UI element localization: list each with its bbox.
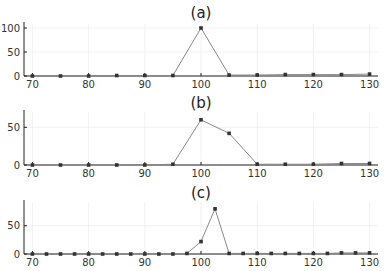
- data-point: [283, 73, 287, 77]
- data-point: [354, 251, 358, 255]
- data-point: [143, 74, 147, 78]
- data-point: [340, 251, 344, 255]
- data-point: [129, 252, 133, 256]
- x-tick-label: 100: [191, 257, 210, 268]
- data-point: [199, 118, 203, 122]
- panel-title: (c): [191, 184, 211, 202]
- x-tick-label: 70: [26, 257, 39, 268]
- data-point: [241, 252, 245, 256]
- data-point: [269, 252, 273, 256]
- x-tick-label: 80: [82, 79, 95, 90]
- x-tick-label: 130: [360, 168, 379, 179]
- y-tick-label: 0: [14, 249, 20, 260]
- x-tick-label: 120: [304, 168, 323, 179]
- data-point: [340, 162, 344, 166]
- y-tick-label: 100: [1, 23, 20, 34]
- data-point: [283, 252, 287, 256]
- y-tick-label: 0: [14, 71, 20, 82]
- data-point: [143, 252, 147, 256]
- x-tick-label: 80: [82, 257, 95, 268]
- data-point: [199, 240, 203, 244]
- x-tick-label: 120: [304, 257, 323, 268]
- data-point: [171, 252, 175, 256]
- data-point: [312, 162, 316, 166]
- data-point: [59, 74, 63, 78]
- data-point: [45, 252, 49, 256]
- x-tick-label: 80: [82, 168, 95, 179]
- data-point: [368, 162, 372, 166]
- data-point: [73, 252, 77, 256]
- data-point: [59, 252, 63, 256]
- panel-c: (c)050708090100110120130: [7, 184, 379, 268]
- data-point: [171, 162, 175, 166]
- data-point: [199, 26, 203, 30]
- data-point: [143, 163, 147, 167]
- data-point: [115, 74, 119, 78]
- x-tick-label: 110: [248, 168, 267, 179]
- data-point: [340, 73, 344, 77]
- x-tick-label: 100: [191, 168, 210, 179]
- x-tick-label: 130: [360, 79, 379, 90]
- y-tick-label: 0: [14, 160, 20, 171]
- x-tick-label: 100: [191, 79, 210, 90]
- x-tick-label: 70: [26, 168, 39, 179]
- x-tick-label: 90: [138, 79, 151, 90]
- data-point: [312, 252, 316, 256]
- panel-a: (a)050100708090100110120130: [1, 4, 379, 90]
- data-point: [31, 74, 35, 78]
- panel-title: (a): [191, 4, 212, 22]
- data-point: [31, 252, 35, 256]
- data-point: [368, 72, 372, 76]
- data-point: [227, 252, 231, 256]
- data-point: [115, 252, 119, 256]
- data-point: [298, 252, 302, 256]
- data-point: [255, 252, 259, 256]
- data-point: [213, 207, 217, 211]
- data-point: [171, 74, 175, 78]
- data-point: [31, 163, 35, 167]
- y-tick-label: 50: [7, 122, 20, 133]
- data-point: [227, 73, 231, 77]
- data-point: [255, 162, 259, 166]
- panel-title: (b): [190, 94, 211, 112]
- data-point: [101, 252, 105, 256]
- x-tick-label: 110: [248, 79, 267, 90]
- x-tick-label: 110: [248, 257, 267, 268]
- x-tick-label: 90: [138, 168, 151, 179]
- data-point: [283, 162, 287, 166]
- x-tick-label: 90: [138, 257, 151, 268]
- x-tick-label: 130: [360, 257, 379, 268]
- data-point: [87, 163, 91, 167]
- data-point: [157, 252, 161, 256]
- data-point: [312, 73, 316, 77]
- data-point: [227, 132, 231, 136]
- data-point: [115, 163, 119, 167]
- data-point: [255, 73, 259, 77]
- chart-figure: (a)050100708090100110120130(b)0507080901…: [0, 0, 389, 271]
- data-point: [87, 74, 91, 78]
- y-tick-label: 50: [7, 220, 20, 231]
- figure: (a)050100708090100110120130(b)0507080901…: [0, 0, 389, 271]
- x-tick-label: 120: [304, 79, 323, 90]
- y-tick-label: 50: [7, 47, 20, 58]
- data-point: [185, 252, 189, 256]
- panel-b: (b)050708090100110120130: [7, 94, 379, 179]
- data-point: [59, 163, 63, 167]
- data-point: [87, 252, 91, 256]
- data-point: [326, 252, 330, 256]
- data-point: [368, 251, 372, 255]
- x-tick-label: 70: [26, 79, 39, 90]
